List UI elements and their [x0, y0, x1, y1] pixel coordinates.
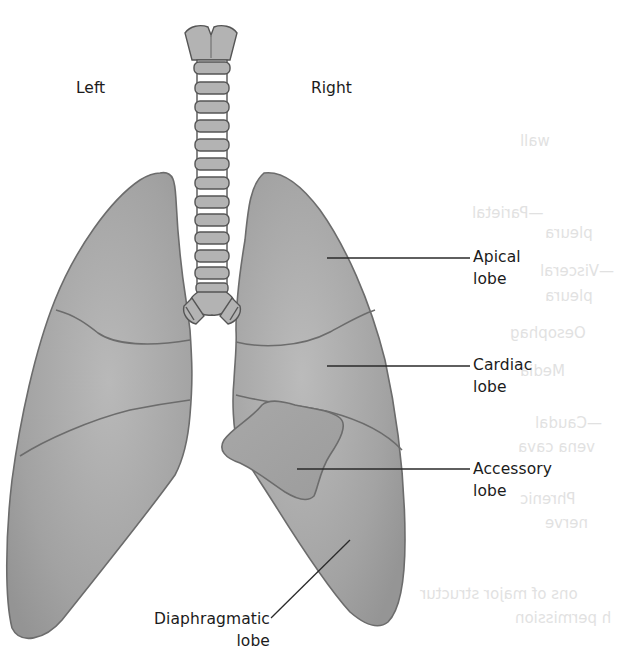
label-accessory-lobe: Accessory lobe [473, 458, 552, 502]
label-diaphragmatic-lobe-line1: Diaphragmatic [142, 608, 270, 630]
label-accessory-lobe-line1: Accessory [473, 458, 552, 480]
label-cardiac-lobe: Cardiac lobe [473, 354, 532, 398]
label-accessory-lobe-line2: lobe [473, 480, 552, 502]
label-apical-lobe-line2: lobe [473, 268, 521, 290]
label-apical-lobe: Apical lobe [473, 246, 521, 290]
label-apical-lobe-line1: Apical [473, 246, 521, 268]
orientation-label-left: Left [76, 79, 105, 97]
label-cardiac-lobe-line1: Cardiac [473, 354, 532, 376]
trachea [184, 26, 241, 324]
left-lung [7, 173, 192, 639]
lung-anatomy-figure: —Parietal pleura —Visceral pleura Oesoph… [0, 0, 637, 658]
orientation-label-right: Right [311, 79, 352, 97]
lung-illustration [0, 0, 637, 658]
right-lung [233, 173, 405, 626]
label-diaphragmatic-lobe-line2: lobe [142, 630, 270, 652]
label-cardiac-lobe-line2: lobe [473, 376, 532, 398]
label-diaphragmatic-lobe: Diaphragmatic lobe [142, 608, 270, 652]
